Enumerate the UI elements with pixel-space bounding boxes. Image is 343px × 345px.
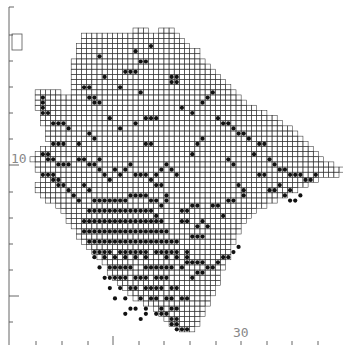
grid-square	[35, 183, 40, 188]
record-dot	[185, 219, 189, 223]
distribution-map: 10 30	[0, 0, 343, 345]
record-dot	[164, 312, 168, 316]
record-dot	[293, 173, 297, 177]
grid-square	[138, 265, 143, 270]
grid-square	[40, 188, 45, 193]
grid-square	[164, 188, 169, 193]
grid-square	[257, 198, 262, 203]
grid-square	[221, 126, 226, 131]
grid-square	[143, 203, 148, 208]
grid-square	[164, 59, 169, 64]
grid-square	[200, 229, 205, 234]
grid-square	[221, 239, 226, 244]
grid-square	[159, 162, 164, 167]
grid-square	[118, 255, 123, 260]
grid-square	[169, 64, 174, 69]
record-dot	[72, 193, 76, 197]
grid-square	[215, 167, 220, 172]
grid-square	[123, 131, 128, 136]
record-dot	[185, 255, 189, 259]
grid-square	[205, 234, 210, 239]
grid-square	[318, 162, 323, 167]
grid-square	[226, 90, 231, 95]
grid-square	[76, 213, 81, 218]
grid-square	[118, 95, 123, 100]
grid-square	[51, 126, 56, 131]
grid-square	[251, 188, 256, 193]
grid-square	[174, 43, 179, 48]
grid-square	[71, 95, 76, 100]
grid-square	[159, 193, 164, 198]
grid-square	[241, 126, 246, 131]
grid-square	[251, 110, 256, 115]
grid-square	[241, 141, 246, 146]
grid-square	[138, 74, 143, 79]
record-dot	[159, 240, 163, 244]
record-dot	[108, 286, 112, 290]
record-dot	[175, 322, 179, 326]
grid-square	[179, 80, 184, 85]
grid-square	[97, 38, 102, 43]
grid-square	[138, 131, 143, 136]
grid-square	[262, 146, 267, 151]
grid-square	[277, 121, 282, 126]
grid-square	[200, 291, 205, 296]
grid-square	[107, 126, 112, 131]
grid-square	[185, 157, 190, 162]
grid-square	[82, 105, 87, 110]
grid-square	[267, 141, 272, 146]
grid-square	[200, 198, 205, 203]
grid-square	[133, 141, 138, 146]
grid-square	[179, 167, 184, 172]
grid-square	[179, 311, 184, 316]
record-dot	[231, 162, 235, 166]
grid-square	[272, 198, 277, 203]
grid-square	[257, 193, 262, 198]
grid-square	[133, 198, 138, 203]
grid-square	[159, 188, 164, 193]
grid-square	[272, 157, 277, 162]
grid-square	[154, 69, 159, 74]
grid-square	[195, 126, 200, 131]
grid-square	[288, 136, 293, 141]
grid-square	[272, 152, 277, 157]
grid-square	[112, 152, 117, 157]
grid-square	[257, 131, 262, 136]
record-dot	[170, 286, 174, 290]
grid-square	[61, 188, 66, 193]
record-dot	[87, 188, 91, 192]
grid-square	[154, 260, 159, 265]
grid-square	[210, 100, 215, 105]
grid-square	[246, 183, 251, 188]
grid-square	[246, 162, 251, 167]
grid-square	[221, 80, 226, 85]
grid-square	[282, 177, 287, 182]
record-dot	[195, 260, 199, 264]
grid-square	[215, 172, 220, 177]
grid-square	[221, 172, 226, 177]
grid-square	[262, 126, 267, 131]
grid-square	[195, 255, 200, 260]
grid-square	[76, 193, 81, 198]
grid-square	[107, 85, 112, 90]
record-dot	[108, 250, 112, 254]
grid-square	[272, 146, 277, 151]
record-dot	[118, 229, 122, 233]
bottom-axis-label: 30	[233, 326, 249, 339]
grid-square	[40, 193, 45, 198]
record-dot	[51, 142, 55, 146]
record-dot	[97, 168, 101, 172]
grid-square	[169, 224, 174, 229]
grid-square	[40, 90, 45, 95]
record-dot	[133, 307, 137, 311]
grid-square	[123, 100, 128, 105]
grid-square	[128, 260, 133, 265]
record-dot	[231, 250, 235, 254]
grid-square	[56, 90, 61, 95]
grid-square	[298, 136, 303, 141]
record-dot	[267, 188, 271, 192]
grid-square	[112, 213, 117, 218]
grid-square	[138, 213, 143, 218]
grid-square	[112, 43, 117, 48]
grid-square	[221, 265, 226, 270]
